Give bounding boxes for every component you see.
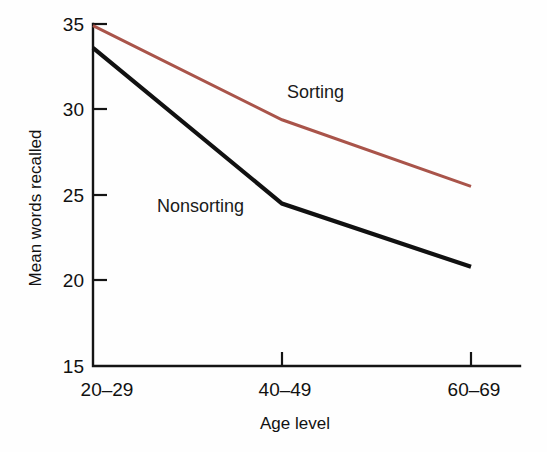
y-tick-label-15: 15 bbox=[63, 356, 84, 377]
chart-figure: 35 30 25 20 15 20–29 40–49 60–69 Age lev… bbox=[0, 0, 547, 452]
x-tick-label-40-49: 40–49 bbox=[259, 379, 312, 400]
x-axis-title: Age level bbox=[260, 414, 330, 433]
y-tick-label-30: 30 bbox=[63, 99, 84, 120]
axis-lines bbox=[93, 24, 520, 366]
x-tick-label-60-69: 60–69 bbox=[448, 379, 501, 400]
series-label-sorting: Sorting bbox=[287, 82, 344, 102]
series-line-sorting bbox=[93, 26, 471, 187]
series-label-nonsorting: Nonsorting bbox=[157, 196, 244, 216]
x-tick-label-20-29: 20–29 bbox=[81, 379, 134, 400]
series-line-nonsorting bbox=[93, 48, 471, 267]
y-axis-title: Mean words recalled bbox=[26, 130, 45, 287]
y-tick-label-25: 25 bbox=[63, 185, 84, 206]
line-chart-canvas: 35 30 25 20 15 20–29 40–49 60–69 Age lev… bbox=[0, 0, 547, 452]
y-tick-label-35: 35 bbox=[63, 14, 84, 35]
y-tick-label-20: 20 bbox=[63, 270, 84, 291]
